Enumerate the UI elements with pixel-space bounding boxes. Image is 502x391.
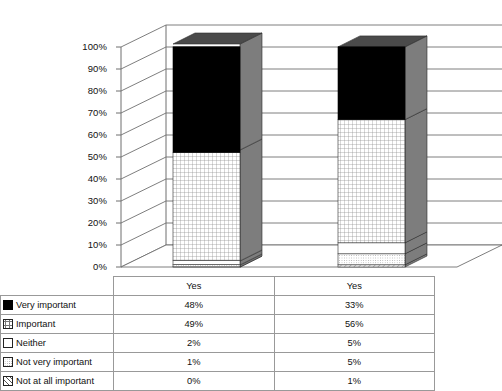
cell-not-at-all-important-col2: 1% — [274, 372, 435, 391]
bar2-seg-neither — [338, 243, 405, 254]
bar1-seg-very-important — [173, 47, 240, 153]
axis-depth-lines — [121, 25, 166, 267]
legend-label: Important — [16, 319, 55, 329]
y-tick-label-80: 80% — [61, 86, 107, 96]
bar1-seg-neither — [173, 260, 240, 264]
cell-very-important-col1: 48% — [114, 296, 275, 315]
legend-swatch-grid — [3, 319, 13, 329]
y-tick-label-40: 40% — [61, 174, 107, 184]
legend-swatch-diagonal-hatch — [3, 376, 13, 386]
legend-row-neither[interactable]: Neither — [1, 334, 114, 353]
cell-very-important-col2: 33% — [274, 296, 435, 315]
table-row: Important 49% 56% — [1, 315, 435, 334]
table-row: Neither 2% 5% — [1, 334, 435, 353]
y-tick-label-90: 90% — [61, 64, 107, 74]
bar1-seg-important — [173, 152, 240, 260]
legend-label: Very important — [16, 300, 76, 310]
bar2-seg-important — [338, 120, 405, 243]
legend-label: Not very important — [16, 357, 92, 367]
table-row: Very important 48% 33% — [1, 296, 435, 315]
bar1-side-important — [240, 139, 262, 261]
legend-swatch-plain-white — [3, 338, 13, 348]
cell-not-very-important-col2: 5% — [274, 353, 435, 372]
table-header-col-1: Yes — [114, 277, 275, 296]
bar1-seg-not-very-important — [173, 265, 240, 267]
cell-important-col2: 56% — [274, 315, 435, 334]
legend-row-important[interactable]: Important — [1, 315, 114, 334]
table-row: Not very important 1% 5% — [1, 353, 435, 372]
legend-swatch-fine-dots — [3, 357, 13, 367]
legend-row-very-important[interactable]: Very important — [1, 296, 114, 315]
y-tick-label-70: 70% — [61, 108, 107, 118]
bar2-side-important — [405, 109, 427, 243]
cell-neither-col2: 5% — [274, 334, 435, 353]
legend-swatch-solid-black — [3, 300, 13, 310]
cell-neither-col1: 2% — [114, 334, 275, 353]
bar2-seg-not-very-important — [338, 254, 405, 265]
bar1-side-veryimp — [240, 33, 262, 150]
cell-important-col1: 49% — [114, 315, 275, 334]
y-tick-label-10: 10% — [61, 240, 107, 250]
legend-row-not-at-all-important[interactable]: Not at all important — [1, 372, 114, 391]
bar-group-1[interactable] — [173, 33, 262, 267]
chart-plot-area: 100% 90% 80% 70% 60% 50% 40% 30% 20% 10%… — [0, 0, 502, 280]
legend-label: Not at all important — [16, 376, 94, 386]
chart-data-table: Yes Yes Very important 48% 33% Impor — [0, 276, 435, 391]
legend-label: Neither — [16, 338, 46, 348]
y-tick-label-20: 20% — [61, 218, 107, 228]
axis-lines — [116, 25, 166, 267]
table-row: Not at all important 0% 1% — [1, 372, 435, 391]
table-header-col-2: Yes — [274, 277, 435, 296]
legend-row-not-very-important[interactable]: Not very important — [1, 353, 114, 372]
y-tick-label-30: 30% — [61, 196, 107, 206]
cell-not-at-all-important-col1: 0% — [114, 372, 275, 391]
table-header-legend-cell — [1, 277, 114, 296]
cell-not-very-important-col1: 1% — [114, 353, 275, 372]
bar2-side-veryimp — [405, 36, 427, 120]
y-tick-label-0: 0% — [61, 262, 107, 272]
y-tick-label-60: 60% — [61, 130, 107, 140]
y-tick-label-50: 50% — [61, 152, 107, 162]
bar2-seg-not-at-all-important — [338, 265, 405, 267]
bar-group-2[interactable] — [338, 36, 427, 267]
y-tick-label-100: 100% — [61, 42, 107, 52]
bar2-seg-very-important — [338, 47, 405, 120]
table-header-row: Yes Yes — [1, 277, 435, 296]
